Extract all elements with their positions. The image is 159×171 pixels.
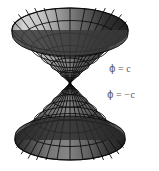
- cone-apex: [68, 81, 71, 84]
- label-phi-equals-negative-c: ϕ=−c: [107, 90, 135, 100]
- upper-cone-lip-thickness: [12, 30, 128, 56]
- cone-figure: ϕ=c ϕ=−c: [0, 0, 159, 171]
- lower-cone-lip-thickness: [15, 116, 125, 140]
- value-lower: −c: [124, 89, 135, 100]
- equals-sign-upper: =: [116, 63, 126, 74]
- value-upper: c: [126, 63, 131, 74]
- label-phi-equals-c: ϕ=c: [109, 64, 131, 74]
- equals-sign-lower: =: [114, 89, 124, 100]
- double-cone-graphic: [0, 0, 159, 171]
